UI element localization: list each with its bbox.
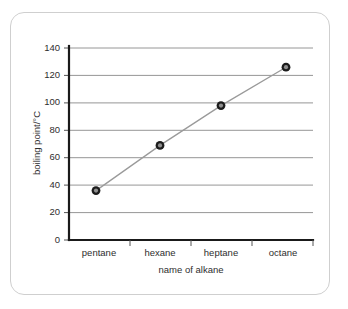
chart-figure: 140 120 100 80 60 40 20 0 pentane hexane… (0, 0, 348, 309)
ytick-label-80: 80 (49, 124, 60, 135)
ytick-label-140: 140 (44, 42, 60, 53)
data-point-heptane (217, 101, 226, 110)
data-point-hexane (156, 141, 165, 150)
ytick-label-0: 0 (55, 234, 60, 245)
x-axis-title: name of alkane (159, 264, 224, 275)
xtick-label-hexane: hexane (144, 247, 175, 258)
marker-inner-hexane (158, 143, 162, 147)
ytick-label-40: 40 (49, 179, 60, 190)
xtick-label-octane: octane (269, 247, 298, 258)
marker-inner-pentane (94, 189, 98, 193)
boiling-point-line-chart: 140 120 100 80 60 40 20 0 pentane hexane… (0, 0, 348, 309)
y-axis-tick-labels: 140 120 100 80 60 40 20 0 (44, 42, 60, 245)
ytick-label-120: 120 (44, 69, 60, 80)
ytick-label-20: 20 (49, 206, 60, 217)
data-point-octane (282, 63, 291, 72)
xtick-label-heptane: heptane (204, 247, 238, 258)
ytick-label-100: 100 (44, 96, 60, 107)
data-point-pentane (92, 186, 101, 195)
series-line-boiling-point (96, 67, 286, 190)
y-axis-title: boiling point/°C (31, 111, 42, 175)
marker-inner-octane (284, 65, 288, 69)
marker-inner-heptane (219, 104, 223, 108)
xtick-label-pentane: pentane (82, 247, 116, 258)
x-axis-tick-labels: pentane hexane heptane octane (82, 247, 297, 258)
ytick-label-60: 60 (49, 151, 60, 162)
